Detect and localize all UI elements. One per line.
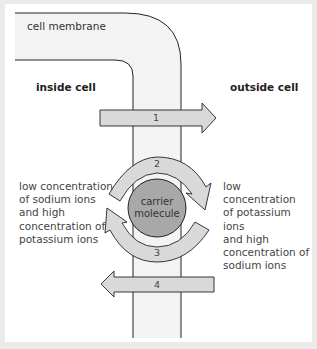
outside-desc-line: concentration of: [223, 246, 312, 259]
outside-description: low concentration of potassium ions and …: [223, 180, 312, 272]
membrane-diagram: [5, 4, 312, 342]
membrane-label: cell membrane: [27, 20, 106, 33]
inside-desc-line: concentration of: [19, 220, 113, 233]
diagram-canvas: cell membrane inside cell outside cell 1…: [5, 4, 312, 342]
inside-cell-label: inside cell: [36, 81, 96, 94]
arrow-2-label: 2: [147, 158, 167, 169]
inside-desc-line: and high: [19, 206, 113, 219]
outside-desc-line: sodium ions: [223, 259, 312, 272]
carrier-molecule-label: carrier molecule: [127, 196, 187, 220]
arrow-4-label: 4: [147, 279, 167, 290]
inside-description: low concentration of sodium ions and hig…: [19, 180, 113, 246]
arrow-1-label: 1: [146, 112, 166, 123]
inside-desc-line: potassium ions: [19, 233, 113, 246]
carrier-label-line1: carrier: [127, 196, 187, 208]
outside-desc-line: and high: [223, 233, 312, 246]
inside-desc-line: of sodium ions: [19, 193, 113, 206]
inside-desc-line: low concentration: [19, 180, 113, 193]
outside-desc-line: of potassium ions: [223, 206, 312, 232]
outside-cell-label: outside cell: [230, 81, 298, 94]
outside-desc-line: low concentration: [223, 180, 312, 206]
carrier-label-line2: molecule: [127, 208, 187, 220]
arrow-3-label: 3: [147, 247, 167, 258]
